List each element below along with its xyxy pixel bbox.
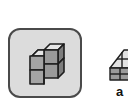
- palette-item-pyramid-cubes[interactable]: a: [106, 46, 128, 100]
- icon-palette: a: [0, 0, 128, 100]
- pyramid-cubes-icon: [108, 46, 128, 82]
- palette-item-label: a: [116, 85, 123, 99]
- cube-stack-icon: [22, 40, 72, 90]
- palette-item-cube-stack[interactable]: [8, 28, 82, 98]
